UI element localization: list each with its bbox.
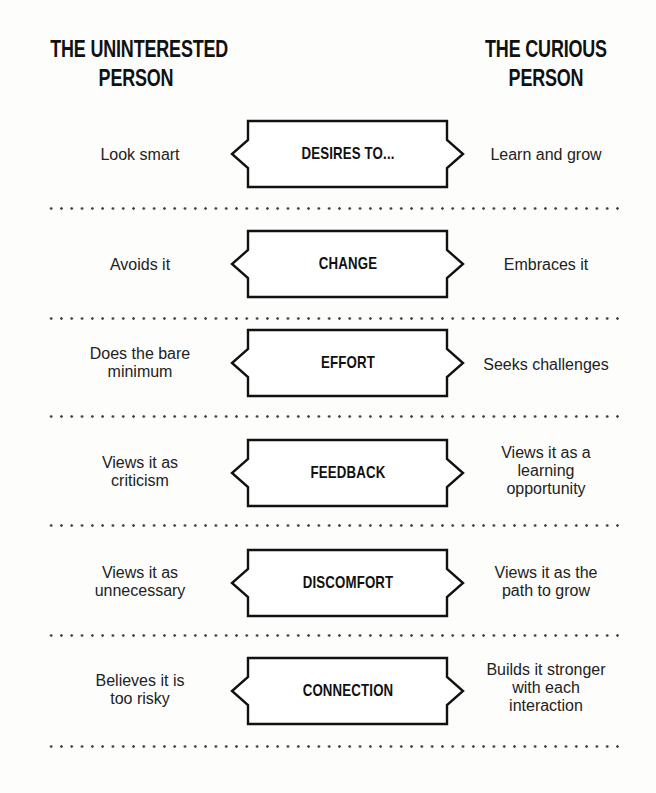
text-line: Views it as a <box>461 444 631 462</box>
curious-person-heading: THE CURIOUS PERSON <box>468 35 624 93</box>
text-line: Believes it is <box>55 672 225 690</box>
text-line: opportunity <box>461 480 631 498</box>
text-line: interaction <box>461 697 631 715</box>
text-line: criticism <box>55 472 225 490</box>
text-line: Does the bare <box>55 345 225 363</box>
heading-line: PERSON <box>50 64 222 93</box>
text-line: path to grow <box>461 582 631 600</box>
heading-line: THE UNINTERESTED <box>50 35 222 64</box>
uninterested-text: Views it as unnecessary <box>55 564 225 600</box>
text-line: Seeks challenges <box>461 356 631 374</box>
text-line: minimum <box>55 363 225 381</box>
curious-text: Views it as a learning opportunity <box>461 444 631 498</box>
text-line: Embraces it <box>461 256 631 274</box>
uninterested-text: Look smart <box>55 146 225 164</box>
topic-label: DESIRES TO... <box>254 144 441 164</box>
text-line: Views it as the <box>461 564 631 582</box>
uninterested-text: Views it as criticism <box>55 454 225 490</box>
text-line: with each <box>461 679 631 697</box>
topic-label: DISCOMFORT <box>254 573 441 593</box>
text-line: Builds it stronger <box>461 661 631 679</box>
uninterested-person-heading: THE UNINTERESTED PERSON <box>50 35 222 93</box>
dotted-divider <box>46 317 626 320</box>
curious-text: Learn and grow <box>461 146 631 164</box>
topic-label: FEEDBACK <box>254 463 441 483</box>
text-line: learning <box>461 462 631 480</box>
text-line: Learn and grow <box>461 146 631 164</box>
heading-line: PERSON <box>468 64 624 93</box>
curious-text: Embraces it <box>461 256 631 274</box>
dotted-divider <box>46 745 626 748</box>
dotted-divider <box>46 207 626 210</box>
curious-text: Seeks challenges <box>461 356 631 374</box>
dotted-divider <box>46 634 626 637</box>
heading-line: THE CURIOUS <box>468 35 624 64</box>
text-line: Avoids it <box>55 256 225 274</box>
dotted-divider <box>46 524 626 527</box>
text-line: Views it as <box>55 564 225 582</box>
text-line: unnecessary <box>55 582 225 600</box>
text-line: Look smart <box>55 146 225 164</box>
topic-label: EFFORT <box>254 353 441 373</box>
uninterested-text: Avoids it <box>55 256 225 274</box>
uninterested-text: Does the bare minimum <box>55 345 225 381</box>
text-line: too risky <box>55 690 225 708</box>
curious-text: Views it as the path to grow <box>461 564 631 600</box>
topic-label: CONNECTION <box>254 681 441 701</box>
curious-text: Builds it stronger with each interaction <box>461 661 631 715</box>
text-line: Views it as <box>55 454 225 472</box>
dotted-divider <box>46 415 626 418</box>
uninterested-text: Believes it is too risky <box>55 672 225 708</box>
topic-label: CHANGE <box>254 254 441 274</box>
